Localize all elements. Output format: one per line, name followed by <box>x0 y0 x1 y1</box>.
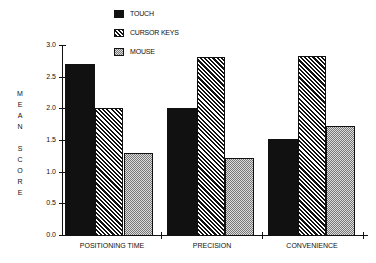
y-label-letter: A <box>15 110 25 121</box>
legend-item-mouse: MOUSE <box>114 48 155 56</box>
y-tick-label: 1.5 <box>28 136 56 143</box>
y-tick-label: 3.0 <box>28 41 56 48</box>
bar-touch-precision <box>167 108 197 236</box>
y-label-letter: S <box>15 143 25 154</box>
y-label-letter: E <box>15 187 25 198</box>
legend-item-touch: TOUCH <box>114 10 154 18</box>
y-label-gap <box>15 132 25 143</box>
bar-cursor-keys-precision <box>197 57 225 236</box>
x-category-label: PRECISION <box>162 242 262 249</box>
x-tick <box>262 232 263 239</box>
touch-swatch-icon <box>114 10 124 18</box>
y-tick-label: 1.0 <box>28 168 56 175</box>
x-tick <box>161 232 162 239</box>
bar-mouse-positioning-time <box>124 153 153 236</box>
legend-label: TOUCH <box>130 10 154 17</box>
y-label-letter: M <box>15 88 25 99</box>
bar-cursor-keys-positioning-time <box>95 108 123 236</box>
y-label-letter: O <box>15 165 25 176</box>
y-tick-label: 0.0 <box>28 231 56 238</box>
cursor-keys-swatch-icon <box>114 29 124 37</box>
mouse-swatch-icon <box>114 48 124 56</box>
y-label-letter: N <box>15 121 25 132</box>
bar-mouse-convenience <box>326 126 355 236</box>
y-label-letter: E <box>15 99 25 110</box>
bar-mouse-precision <box>225 158 254 236</box>
y-tick-label: 0.5 <box>28 199 56 206</box>
legend-item-cursor-keys: CURSOR KEYS <box>114 29 179 37</box>
y-tick-label: 2.5 <box>28 73 56 80</box>
y-tick <box>59 45 66 46</box>
legend-label: CURSOR KEYS <box>130 29 179 36</box>
legend-label: MOUSE <box>130 48 155 55</box>
bar-touch-positioning-time <box>65 64 95 236</box>
y-label-letter: C <box>15 154 25 165</box>
y-tick-label: 2.0 <box>28 104 56 111</box>
y-label-letter: R <box>15 176 25 187</box>
bar-touch-convenience <box>268 139 298 236</box>
bar-cursor-keys-convenience <box>298 56 326 236</box>
x-category-label: POSITIONING TIME <box>62 242 162 249</box>
x-category-label: CONVENIENCE <box>262 242 362 249</box>
y-axis-label: M E A N S C O R E <box>15 88 25 198</box>
x-tick <box>363 232 364 239</box>
